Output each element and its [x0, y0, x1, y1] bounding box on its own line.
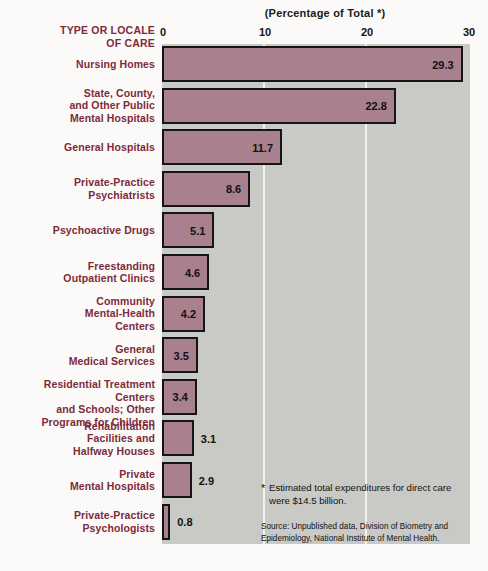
bar-row-label-line: Residential Treatment Centers: [6, 378, 155, 403]
bar-row-label-line: and Other Public: [6, 99, 155, 112]
x-tick-30: 30: [463, 26, 475, 38]
bar-value-label: 3.4: [173, 391, 188, 403]
bar-value-label: 29.3: [432, 59, 453, 71]
bar-row-label-line: General: [6, 343, 155, 356]
bar: 29.3: [162, 46, 463, 82]
bar-row: CommunityMental-HealthCenters4.2: [0, 296, 488, 332]
bar-value-label: 11.7: [252, 142, 273, 154]
bar-row-label-line: Outpatient Clinics: [6, 272, 155, 285]
bar: 4.6: [162, 254, 209, 290]
bar-row-label-line: Rehabilitation: [6, 420, 155, 433]
bar-row-label: Private-PracticePsychiatrists: [6, 176, 155, 201]
bar-row: Residential Treatment Centersand Schools…: [0, 379, 488, 415]
bar-row-label-line: State, County,: [6, 87, 155, 100]
bar-chart: (Percentage of Total *) TYPE OR LOCALE O…: [0, 0, 488, 571]
bar-row-label: GeneralMedical Services: [6, 343, 155, 368]
bar-row: Psychoactive Drugs5.1: [0, 212, 488, 248]
bar-row: Private-PracticePsychiatrists8.6: [0, 171, 488, 207]
bar-row-label-line: Halfway Houses: [6, 445, 155, 458]
bar-row: Nursing Homes29.3: [0, 46, 488, 82]
footnote-marker: *: [261, 482, 265, 495]
bar-value-label: 4.2: [181, 308, 196, 320]
bar-row-label-line: Private: [6, 468, 155, 481]
bar: 2.9: [162, 462, 192, 498]
bar-row-label-line: Private-Practice: [6, 509, 155, 522]
bar-row: FreestandingOutpatient Clinics4.6: [0, 254, 488, 290]
bar-row-label-line: Mental Hospitals: [6, 480, 155, 493]
footnote-text: Estimated total expenditures for direct …: [261, 481, 469, 507]
footnote: * Estimated total expenditures for direc…: [261, 481, 469, 507]
bar: 4.2: [162, 296, 205, 332]
bar-row-label: Private-PracticePsychologists: [6, 509, 155, 534]
bar-value-label: 3.1: [201, 433, 216, 445]
bar-row-label: Nursing Homes: [6, 58, 155, 71]
bar-value-label: 3.5: [174, 350, 189, 362]
bar: 22.8: [162, 88, 396, 124]
bar-row-label-line: Nursing Homes: [6, 58, 155, 71]
bar-row: GeneralMedical Services3.5: [0, 337, 488, 373]
bar-row-label-line: General Hospitals: [6, 141, 155, 154]
bar-row-label-line: Psychologists: [6, 522, 155, 535]
bar-row-label-line: Facilities and: [6, 432, 155, 445]
bar-row-label-line: Mental-Health: [6, 307, 155, 320]
bar-row-label: PrivateMental Hospitals: [6, 468, 155, 493]
bar-value-label: 0.8: [177, 516, 192, 528]
source-note: Source: Unpublished data, Division of Bi…: [261, 521, 472, 544]
bar-row-label-line: Medical Services: [6, 355, 155, 368]
bar-row-label-line: Psychiatrists: [6, 189, 155, 202]
category-header-line-1: TYPE OR LOCALE: [10, 24, 155, 37]
bar-value-label: 5.1: [190, 225, 205, 237]
bar-value-label: 8.6: [226, 183, 241, 195]
chart-title: (Percentage of Total *): [180, 7, 470, 19]
x-tick-20: 20: [361, 26, 373, 38]
bar: 3.4: [162, 379, 197, 415]
bar-row-label: General Hospitals: [6, 141, 155, 154]
bar: 3.5: [162, 337, 198, 373]
bar-row-label: Psychoactive Drugs: [6, 224, 155, 237]
bar-row-label: RehabilitationFacilities andHalfway Hous…: [6, 420, 155, 458]
x-tick-0: 0: [160, 26, 166, 38]
bar: 0.8: [162, 504, 170, 540]
bar-row-label: CommunityMental-HealthCenters: [6, 295, 155, 333]
bar-row: State, County,and Other PublicMental Hos…: [0, 88, 488, 124]
bar: 8.6: [162, 171, 250, 207]
bar: 5.1: [162, 212, 214, 248]
bar-value-label: 2.9: [199, 475, 214, 487]
bar-row-label: State, County,and Other PublicMental Hos…: [6, 87, 155, 125]
bar-row-label-line: Private-Practice: [6, 176, 155, 189]
bar: 3.1: [162, 420, 194, 456]
bar-row-label-line: Mental Hospitals: [6, 112, 155, 125]
bar-value-label: 4.6: [185, 267, 200, 279]
bar: 11.7: [162, 129, 282, 165]
bar-row: RehabilitationFacilities andHalfway Hous…: [0, 420, 488, 456]
x-tick-10: 10: [259, 26, 271, 38]
bar-row-label-line: and Schools; Other: [6, 403, 155, 416]
bar-row-label-line: Psychoactive Drugs: [6, 224, 155, 237]
bar-row-label-line: Freestanding: [6, 260, 155, 273]
bar-row: General Hospitals11.7: [0, 129, 488, 165]
bar-row-label-line: Centers: [6, 320, 155, 333]
bar-row-label: FreestandingOutpatient Clinics: [6, 260, 155, 285]
bar-value-label: 22.8: [366, 100, 387, 112]
bar-row-label-line: Community: [6, 295, 155, 308]
